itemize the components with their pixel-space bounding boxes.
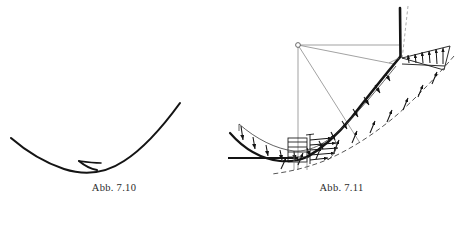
fan-arrow [429, 51, 430, 63]
center-point-icon [296, 43, 301, 48]
arrow-fan-top [402, 46, 450, 70]
suction-tick-arrow [403, 98, 408, 110]
suction-tick-arrow [370, 121, 375, 133]
radius-line-secondary [298, 45, 394, 64]
suction-tick-arrow-group [281, 72, 437, 169]
suction-side-dashed-curve [272, 56, 454, 174]
delta-n-tick-top [306, 134, 314, 135]
fan-arrow [422, 52, 423, 63]
suction-tick-arrow [418, 85, 423, 97]
caption-abb-7-11: Abb. 7.11 [228, 182, 455, 193]
cmax-arrow [310, 148, 338, 150]
pressure-envelope-upper [239, 66, 396, 151]
velocity-profile-cmax [310, 138, 338, 160]
blade-upper-tail [400, 8, 401, 57]
pressure-arrow [241, 126, 243, 140]
blade-main-curve [307, 57, 400, 157]
pressure-arrow [266, 145, 268, 156]
suction-tick-arrow [432, 72, 437, 84]
figure-page: R -Δp A Δn cmax c 0 Abb. 7.10 Abb. 7.11 [0, 0, 455, 225]
pressure-arrow [253, 137, 255, 149]
radius-line [298, 45, 360, 143]
tail-dashed-line [402, 6, 408, 60]
fan-arrow [436, 49, 437, 64]
cmax-arrow [310, 158, 328, 160]
caption-abb-7-10: Abb. 7.10 [0, 182, 228, 193]
